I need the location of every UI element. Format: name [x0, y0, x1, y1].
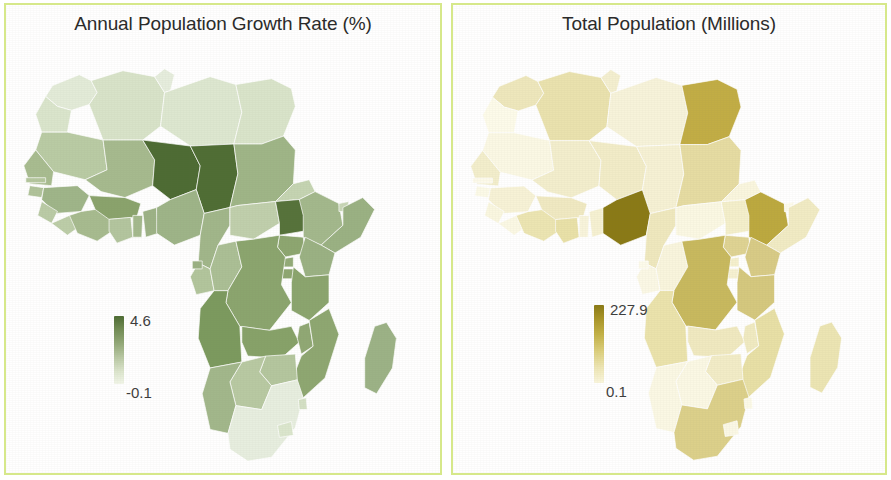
- country-eswatini: [744, 397, 753, 409]
- country-libya: [161, 77, 242, 146]
- country-equatorial-guinea: [638, 261, 648, 269]
- country-nigeria: [603, 190, 650, 245]
- country-car: [676, 202, 725, 239]
- country-ghana: [556, 218, 580, 244]
- country-togo: [579, 216, 589, 238]
- country-eswatini: [298, 398, 307, 410]
- country-gambia: [473, 178, 493, 183]
- colorbar-total-population: 227.9 0.1: [586, 297, 706, 407]
- country-benin: [143, 207, 159, 237]
- country-algeria: [89, 71, 164, 140]
- country-egypt: [680, 79, 741, 144]
- map-total-population: [453, 39, 885, 475]
- country-equatorial-guinea: [192, 261, 202, 269]
- country-togo: [133, 215, 143, 237]
- colorbar-min-label-growth: -0.1: [126, 384, 152, 401]
- page-title-total-population: Total Population (Millions): [453, 13, 885, 35]
- country-algeria: [536, 72, 611, 141]
- country-egypt: [234, 79, 295, 144]
- africa-map-svg-population: [453, 39, 885, 475]
- country-ghana: [109, 217, 133, 243]
- panel-growth-rate: Annual Population Growth Rate (%): [4, 3, 442, 475]
- country-nigeria: [157, 190, 205, 245]
- country-car: [230, 202, 280, 240]
- colorbar-max-label-growth: 4.6: [130, 312, 151, 329]
- country-benin: [589, 208, 605, 238]
- colorbar-gradient-population: [594, 305, 604, 383]
- country-guinea-bissau: [28, 186, 44, 198]
- country-gambia: [26, 178, 46, 183]
- colorbar-max-label-population: 227.9: [610, 301, 648, 318]
- colorbar-growth-rate: 4.6 -0.1: [106, 308, 226, 418]
- country-zambia: [242, 326, 299, 358]
- panel-total-population: Total Population (Millions): [451, 3, 887, 475]
- colorbar-min-label-population: 0.1: [606, 383, 627, 400]
- country-madagascar: [365, 322, 397, 393]
- two-panel-choropleth-figure: Annual Population Growth Rate (%): [0, 0, 891, 480]
- page-title-growth-rate: Annual Population Growth Rate (%): [6, 13, 440, 35]
- country-guinea-bissau: [475, 186, 491, 198]
- country-madagascar: [810, 322, 842, 393]
- colorbar-gradient-growth: [114, 316, 124, 384]
- country-libya: [607, 77, 688, 146]
